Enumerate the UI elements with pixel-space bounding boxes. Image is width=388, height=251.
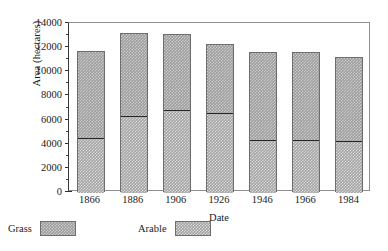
y-tick-label: 4000	[0, 137, 62, 148]
legend-label-grass: Grass	[8, 223, 32, 234]
bar-1886	[120, 33, 148, 192]
bar-segment-grass	[164, 35, 190, 110]
x-tick-label: 1906	[165, 194, 186, 205]
bar-segment-arable	[121, 116, 147, 193]
legend-label-arable: Arable	[138, 223, 167, 234]
bar-segment-divider	[250, 140, 276, 141]
x-tick-label: 1946	[252, 194, 273, 205]
bar-1946	[249, 52, 277, 192]
bar-segment-grass	[293, 53, 319, 140]
y-tick-label: 8000	[0, 89, 62, 100]
bar-segment-divider	[336, 141, 362, 142]
bar-segment-grass	[78, 52, 104, 138]
bar-segment-divider	[121, 116, 147, 117]
bar-segment-arable	[207, 113, 233, 193]
bar-segment-divider	[207, 113, 233, 114]
bar-segment-grass	[121, 34, 147, 116]
y-tick-label: 6000	[0, 113, 62, 124]
x-tick-label: 1866	[79, 194, 100, 205]
bar-segment-arable	[164, 110, 190, 193]
chart-figure: Area (hectares) 020004000600080001000012…	[0, 0, 388, 251]
bar-segment-divider	[293, 140, 319, 141]
bar-segment-grass	[250, 53, 276, 140]
bar-segment-divider	[164, 110, 190, 111]
bar-1866	[77, 51, 105, 192]
x-tick-label: 1984	[338, 194, 359, 205]
y-tick-label: 10000	[0, 65, 62, 76]
bar-segment-arable	[78, 138, 104, 193]
bar-segment-grass	[207, 45, 233, 114]
y-tick-label: 12000	[0, 41, 62, 52]
bar-segment-grass	[336, 58, 362, 141]
y-tick-label: 14000	[0, 17, 62, 28]
chart-legend: Grass Arable	[8, 221, 258, 245]
legend-swatch-grass	[40, 221, 76, 236]
legend-swatch-arable	[175, 221, 211, 236]
x-tick-label: 1886	[122, 194, 143, 205]
legend-item-arable: Arable	[138, 221, 211, 236]
bar-segment-divider	[78, 138, 104, 139]
y-tick-mark	[65, 191, 72, 192]
y-tick-label: 0	[0, 186, 62, 197]
x-tick-label: 1926	[209, 194, 230, 205]
y-tick-label: 2000	[0, 161, 62, 172]
bar-1984	[335, 57, 363, 192]
bar-segment-arable	[293, 140, 319, 193]
x-tick-label: 1966	[295, 194, 316, 205]
bar-1966	[292, 52, 320, 192]
bar-segment-arable	[336, 141, 362, 193]
bar-1926	[206, 44, 234, 192]
legend-item-grass: Grass	[8, 221, 76, 236]
plot-area	[68, 22, 370, 191]
bar-segment-arable	[250, 140, 276, 193]
bar-1906	[163, 34, 191, 192]
